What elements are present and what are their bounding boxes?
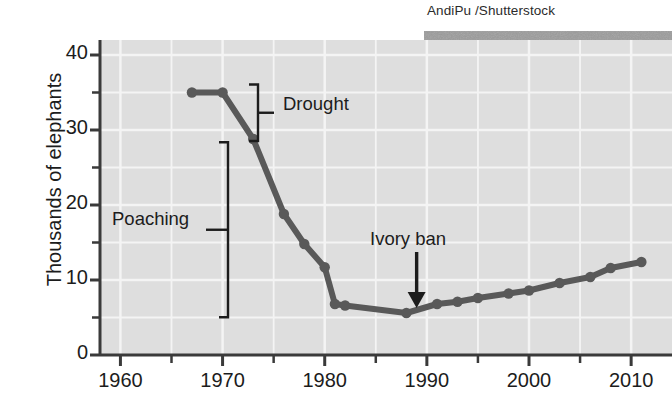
- y-tick-label: 0: [44, 341, 88, 364]
- x-tick-label: 2010: [591, 369, 671, 392]
- y-axis-title: Thousands of elephants: [43, 30, 66, 330]
- annotation-poaching-label: Poaching: [112, 208, 189, 230]
- x-tick-label: 1980: [285, 369, 365, 392]
- x-tick-label: 1960: [80, 369, 160, 392]
- x-tick-label: 2000: [489, 369, 569, 392]
- line-chart-plot: [0, 0, 672, 400]
- annotation-ivory-ban-label: Ivory ban: [370, 228, 446, 250]
- elephant-population-figure: AndiPu /Shutterstock: [0, 0, 672, 400]
- annotation-drought-label: Drought: [283, 93, 349, 115]
- x-tick-label: 1970: [183, 369, 263, 392]
- x-tick-label: 1990: [387, 369, 467, 392]
